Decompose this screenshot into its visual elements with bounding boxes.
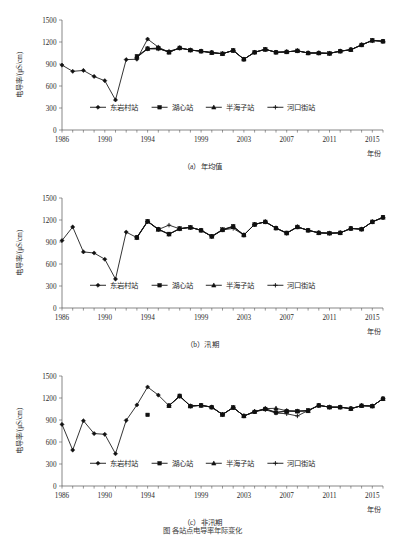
- x-tick-label: 2011: [322, 314, 337, 322]
- series-3: [135, 215, 386, 239]
- x-tick-label: 1994: [140, 492, 155, 500]
- series-1: [60, 385, 385, 456]
- x-tick-label: 2007: [280, 136, 295, 144]
- y-tick-label: 1500: [42, 195, 57, 203]
- x-tick-label: 2011: [322, 136, 337, 144]
- y-axis-title: 电导率/(μS/cm): [15, 229, 24, 276]
- series-3: [135, 38, 386, 61]
- chart-svg-a: 0300600900120015001986199019941999200320…: [0, 0, 405, 160]
- y-tick-label: 0: [53, 127, 57, 135]
- x-axis-title: 年份: [367, 149, 381, 158]
- series-1: [60, 37, 385, 102]
- x-tick-label: 2003: [237, 492, 252, 500]
- y-tick-label: 300: [46, 105, 57, 113]
- series-2: [135, 38, 385, 61]
- legend-label: 半海子站: [226, 103, 255, 112]
- y-tick-label: 0: [53, 483, 57, 491]
- x-tick-label: 1999: [194, 136, 209, 144]
- x-tick-label: 2015: [365, 314, 380, 322]
- series-4: [135, 38, 386, 61]
- y-tick-label: 1200: [42, 217, 57, 225]
- chart-panel-a: 0300600900120015001986199019941999200320…: [0, 0, 405, 178]
- legend-label: 湖心站: [172, 281, 194, 290]
- x-tick-label: 1994: [140, 314, 155, 322]
- x-tick-label: 1990: [98, 314, 113, 322]
- axes: 0300600900120015001986199019941999200320…: [42, 17, 383, 144]
- y-tick-label: 1200: [42, 395, 57, 403]
- legend-label: 湖心站: [172, 103, 194, 112]
- chart-svg-c: 0300600900120015001986199019941999200320…: [0, 356, 405, 516]
- x-tick-label: 2003: [237, 314, 252, 322]
- y-tick-label: 300: [46, 283, 57, 291]
- figure-caption: 图 各站点电导率年际变化: [0, 524, 405, 535]
- x-tick-label: 1994: [140, 136, 155, 144]
- y-tick-label: 900: [46, 61, 57, 69]
- x-tick-label: 1990: [98, 492, 113, 500]
- x-tick-label: 2007: [280, 492, 295, 500]
- plot-series: [60, 37, 385, 102]
- legend: 东岩村站湖心站半海子站河口街站: [90, 459, 316, 468]
- y-tick-label: 900: [46, 239, 57, 247]
- panel-caption-b: （b）汛期: [0, 338, 405, 349]
- x-tick-label: 2011: [322, 492, 337, 500]
- x-tick-label: 2003: [237, 136, 252, 144]
- legend-label: 东岩村站: [110, 281, 139, 290]
- x-tick-label: 1986: [55, 314, 70, 322]
- legend-label: 河口街站: [287, 103, 316, 112]
- series-1: [60, 215, 385, 281]
- chart-svg-b: 0300600900120015001986199019941999200320…: [0, 178, 405, 338]
- panel-caption-a: （a）年均值: [0, 160, 405, 171]
- x-tick-label: 1999: [194, 314, 209, 322]
- y-tick-label: 1200: [42, 39, 57, 47]
- legend: 东岩村站湖心站半海子站河口街站: [90, 281, 316, 290]
- legend-label: 半海子站: [226, 281, 255, 290]
- legend-label: 河口街站: [287, 459, 316, 468]
- legend-label: 河口街站: [287, 281, 316, 290]
- x-tick-label: 2007: [280, 314, 295, 322]
- y-tick-label: 300: [46, 461, 57, 469]
- x-tick-label: 1986: [55, 136, 70, 144]
- y-tick-label: 1500: [42, 17, 57, 25]
- x-tick-label: 2015: [365, 492, 380, 500]
- chart-panel-b: 0300600900120015001986199019941999200320…: [0, 178, 405, 356]
- plot-series: [60, 215, 385, 281]
- chart-panel-c: 0300600900120015001986199019941999200320…: [0, 356, 405, 534]
- axes: 0300600900120015001986199019941999200320…: [42, 373, 383, 500]
- x-tick-label: 1990: [98, 136, 113, 144]
- plot-series: [60, 385, 385, 456]
- x-tick-label: 1986: [55, 492, 70, 500]
- axes: 0300600900120015001986199019941999200320…: [42, 195, 383, 322]
- y-axis-title: 电导率/(μS/cm): [15, 51, 24, 98]
- legend-label: 湖心站: [172, 459, 194, 468]
- legend-label: 半海子站: [226, 459, 255, 468]
- y-tick-label: 600: [46, 439, 57, 447]
- y-tick-label: 0: [53, 305, 57, 313]
- x-axis-title: 年份: [367, 327, 381, 336]
- legend: 东岩村站湖心站半海子站河口街站: [90, 103, 316, 112]
- y-axis-title: 电导率/(μS/cm): [15, 407, 24, 454]
- series-4: [135, 216, 386, 240]
- y-tick-label: 600: [46, 83, 57, 91]
- x-axis-title: 年份: [367, 505, 381, 514]
- x-tick-label: 2015: [365, 136, 380, 144]
- y-tick-label: 1500: [42, 373, 57, 381]
- legend-label: 东岩村站: [110, 459, 139, 468]
- legend-label: 东岩村站: [110, 103, 139, 112]
- y-tick-label: 900: [46, 417, 57, 425]
- x-tick-label: 1999: [194, 492, 209, 500]
- series-2: [135, 215, 385, 239]
- y-tick-label: 600: [46, 261, 57, 269]
